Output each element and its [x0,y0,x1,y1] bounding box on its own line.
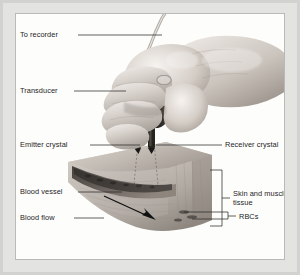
bracket-skin-muscle [210,170,230,226]
frame-bevel: To recorder Transducer Emitter crystal R… [3,3,297,272]
label-transducer: Transducer [20,86,58,95]
hand-gripping-probe [102,36,285,150]
doppler-illustration [16,14,285,260]
illustration-panel: To recorder Transducer Emitter crystal R… [15,13,285,260]
label-to-recorder: To recorder [20,30,58,39]
label-emitter-crystal: Emitter crystal [20,140,68,149]
label-receiver-crystal: Receiver crystal [225,140,278,149]
label-blood-vessel: Blood vessel [20,187,63,196]
label-skin-and-muscle-tissue: Skin and muscle tissue [233,189,285,207]
label-blood-flow: Blood flow [20,213,55,222]
figure-frame: To recorder Transducer Emitter crystal R… [0,0,300,275]
label-rbcs: RBCs [239,212,259,221]
